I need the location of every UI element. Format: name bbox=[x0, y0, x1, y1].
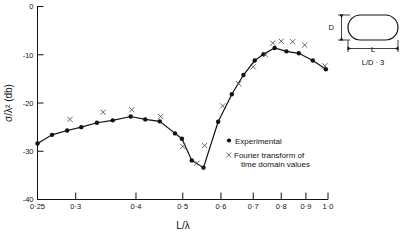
inset-diagram: D L L/D · 3 bbox=[329, 15, 399, 68]
y-axis-title: σ/λ² (db) bbox=[3, 84, 14, 122]
data-point-experimental bbox=[35, 141, 39, 145]
legend-label-fourier-line2: time domain values bbox=[241, 160, 310, 169]
x-tick-label: 0·25 bbox=[30, 202, 45, 211]
x-tick-label: 0·6 bbox=[216, 202, 227, 211]
y-tick-label: -30 bbox=[23, 147, 34, 156]
data-point-fourier bbox=[270, 41, 275, 46]
data-point-fourier bbox=[302, 43, 307, 48]
y-tick-label: 0 bbox=[29, 2, 33, 11]
x-axis-ticks: 0·250·30·40·50·60·70·80·91·0 bbox=[30, 193, 333, 212]
data-point-experimental bbox=[272, 46, 276, 50]
data-point-experimental bbox=[65, 128, 69, 132]
data-point-experimental bbox=[284, 49, 288, 53]
data-point-experimental bbox=[180, 137, 184, 141]
data-point-fourier bbox=[279, 39, 284, 44]
data-point-fourier bbox=[202, 143, 207, 148]
inset-label-d: D bbox=[329, 23, 335, 32]
data-point-fourier bbox=[180, 144, 185, 149]
data-point-experimental bbox=[241, 73, 245, 77]
inset-d-arrowhead-up bbox=[340, 15, 344, 19]
data-point-experimental bbox=[50, 133, 54, 137]
data-point-fourier bbox=[290, 39, 295, 44]
data-point-experimental bbox=[324, 67, 328, 71]
inset-d-arrowhead-down bbox=[340, 37, 344, 41]
data-point-experimental bbox=[158, 119, 162, 123]
data-point-fourier bbox=[220, 103, 225, 108]
data-point-experimental bbox=[173, 131, 177, 135]
x-tick-label: 0·7 bbox=[248, 202, 259, 211]
x-axis-title: L/λ bbox=[176, 220, 189, 231]
legend-label-experimental: Experimental bbox=[235, 137, 282, 146]
data-point-experimental bbox=[230, 92, 234, 96]
data-point-fourier bbox=[251, 64, 256, 69]
y-axis-ticks: 0-10-20-30-40 bbox=[23, 2, 44, 204]
y-tick-label: -10 bbox=[23, 51, 34, 60]
data-point-fourier bbox=[101, 110, 106, 115]
inset-l-arrowhead-left bbox=[348, 47, 352, 51]
data-point-experimental bbox=[143, 117, 147, 121]
legend-label-fourier-line1: Fourier transform of bbox=[234, 151, 305, 160]
data-point-experimental bbox=[95, 121, 99, 125]
data-point-experimental bbox=[128, 114, 132, 118]
fourier-transform-markers bbox=[67, 39, 327, 166]
data-point-fourier bbox=[129, 107, 134, 112]
data-point-experimental bbox=[190, 158, 194, 162]
data-point-fourier bbox=[67, 117, 72, 122]
rcs-vs-l-over-lambda-chart: 0-10-20-30-40 0·250·30·40·50·60·70·80·91… bbox=[0, 0, 403, 237]
data-point-fourier bbox=[194, 161, 199, 166]
y-tick-label: -20 bbox=[23, 99, 34, 108]
x-tick-label: 1·0 bbox=[323, 202, 334, 211]
x-tick-label: 0·4 bbox=[131, 202, 142, 211]
legend-marker-experimental bbox=[227, 138, 231, 142]
capsule-shape-icon bbox=[348, 15, 398, 40]
data-point-experimental bbox=[216, 120, 220, 124]
data-point-experimental bbox=[297, 51, 301, 55]
data-point-experimental bbox=[311, 58, 315, 62]
x-tick-label: 0·9 bbox=[300, 202, 311, 211]
x-tick-label: 0·8 bbox=[276, 202, 287, 211]
figure-container: 0-10-20-30-40 0·250·30·40·50·60·70·80·91… bbox=[0, 0, 403, 237]
x-tick-label: 0·3 bbox=[70, 202, 81, 211]
data-point-experimental bbox=[79, 125, 83, 129]
data-point-experimental bbox=[253, 58, 257, 62]
inset-label-ratio: L/D · 3 bbox=[362, 58, 385, 67]
data-point-fourier bbox=[158, 114, 163, 119]
legend: Experimental Fourier transform of time d… bbox=[226, 137, 310, 169]
data-point-experimental bbox=[111, 118, 115, 122]
data-point-experimental bbox=[201, 165, 205, 169]
legend-marker-fourier bbox=[226, 153, 231, 158]
x-tick-label: 0·5 bbox=[177, 202, 188, 211]
inset-l-arrowhead-right bbox=[395, 47, 399, 51]
inset-label-l: L bbox=[371, 45, 376, 54]
